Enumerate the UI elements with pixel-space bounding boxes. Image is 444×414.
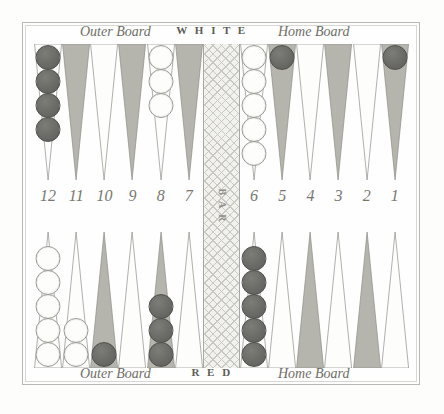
checker-white[interactable] xyxy=(242,141,267,166)
checker-white[interactable] xyxy=(36,294,61,319)
point-6[interactable] xyxy=(240,232,268,368)
top-home-board-label: Home Board xyxy=(278,24,349,40)
checker-stack[interactable] xyxy=(36,247,61,367)
backgammon-board-figure: Outer Board W H I T E Home Board B A R 1… xyxy=(0,0,444,414)
point-5[interactable] xyxy=(268,44,296,180)
point-number-8: 8 xyxy=(147,180,175,212)
checker-dark[interactable] xyxy=(270,45,295,70)
checker-stack[interactable] xyxy=(242,45,267,165)
checker-stack[interactable] xyxy=(148,45,173,117)
point-10[interactable] xyxy=(90,232,118,368)
point-12[interactable] xyxy=(34,232,62,368)
point-number-12: 12 xyxy=(34,180,62,212)
checker-stack[interactable] xyxy=(382,45,407,69)
top-outer-board-label: Outer Board xyxy=(80,24,151,40)
top-outer-quadrant xyxy=(34,44,203,180)
point-4[interactable] xyxy=(296,232,324,368)
checker-dark[interactable] xyxy=(148,294,173,319)
bottom-caption-row: Outer Board R E D Home Board xyxy=(34,366,409,384)
top-home-quadrant xyxy=(240,44,409,180)
checker-stack[interactable] xyxy=(148,295,173,367)
checker-stack[interactable] xyxy=(36,45,61,141)
checker-white[interactable] xyxy=(242,69,267,94)
checker-white[interactable] xyxy=(64,318,89,343)
checker-dark[interactable] xyxy=(242,318,267,343)
point-11[interactable] xyxy=(62,44,90,180)
point-number-6: 6 xyxy=(240,180,268,212)
point-number-7: 7 xyxy=(175,180,203,212)
point-1[interactable] xyxy=(381,232,409,368)
checker-white[interactable] xyxy=(148,93,173,118)
bottom-player-label: R E D xyxy=(191,366,232,378)
point-8[interactable] xyxy=(147,44,175,180)
checker-dark[interactable] xyxy=(36,45,61,70)
point-number-4: 4 xyxy=(296,180,324,212)
point-1[interactable] xyxy=(381,44,409,180)
point-7[interactable] xyxy=(175,232,203,368)
checker-stack[interactable] xyxy=(92,343,117,367)
point-3[interactable] xyxy=(324,44,352,180)
checker-dark[interactable] xyxy=(242,246,267,271)
checker-dark[interactable] xyxy=(242,294,267,319)
point-8[interactable] xyxy=(147,232,175,368)
checker-stack[interactable] xyxy=(64,319,89,367)
checker-dark[interactable] xyxy=(242,270,267,295)
point-6[interactable] xyxy=(240,44,268,180)
checker-dark[interactable] xyxy=(382,45,407,70)
checker-white[interactable] xyxy=(148,45,173,70)
top-caption-row: Outer Board W H I T E Home Board xyxy=(34,24,409,42)
point-12[interactable] xyxy=(34,44,62,180)
point-number-10: 10 xyxy=(90,180,118,212)
point-number-row: 121110987 654321 xyxy=(34,180,409,212)
point-7[interactable] xyxy=(175,44,203,180)
checker-dark[interactable] xyxy=(242,342,267,367)
checker-stack[interactable] xyxy=(242,247,267,367)
checker-stack[interactable] xyxy=(270,45,295,69)
checker-dark[interactable] xyxy=(36,117,61,142)
checker-white[interactable] xyxy=(36,246,61,271)
checker-white[interactable] xyxy=(148,69,173,94)
bottom-home-quadrant xyxy=(240,232,409,368)
checker-white[interactable] xyxy=(36,342,61,367)
point-number-1: 1 xyxy=(381,180,409,212)
point-number-3: 3 xyxy=(324,180,352,212)
checker-dark[interactable] xyxy=(36,69,61,94)
point-3[interactable] xyxy=(324,232,352,368)
point-number-5: 5 xyxy=(268,180,296,212)
bottom-outer-quadrant xyxy=(34,232,203,368)
point-number-2: 2 xyxy=(353,180,381,212)
bottom-home-board-label: Home Board xyxy=(278,366,349,382)
point-10[interactable] xyxy=(90,44,118,180)
point-5[interactable] xyxy=(268,232,296,368)
checker-white[interactable] xyxy=(242,45,267,70)
point-2[interactable] xyxy=(353,232,381,368)
checker-white[interactable] xyxy=(242,117,267,142)
point-9[interactable] xyxy=(118,232,146,368)
checker-dark[interactable] xyxy=(92,342,117,367)
point-number-9: 9 xyxy=(118,180,146,212)
checker-white[interactable] xyxy=(64,342,89,367)
point-11[interactable] xyxy=(62,232,90,368)
point-4[interactable] xyxy=(296,44,324,180)
checker-white[interactable] xyxy=(36,318,61,343)
point-number-11: 11 xyxy=(62,180,90,212)
point-numbers-left: 121110987 xyxy=(34,180,203,212)
top-player-label: W H I T E xyxy=(176,24,247,36)
checker-white[interactable] xyxy=(36,270,61,295)
checker-white[interactable] xyxy=(242,93,267,118)
point-9[interactable] xyxy=(118,44,146,180)
checker-dark[interactable] xyxy=(148,318,173,343)
checker-dark[interactable] xyxy=(36,93,61,118)
checker-dark[interactable] xyxy=(148,342,173,367)
point-2[interactable] xyxy=(353,44,381,180)
bottom-outer-board-label: Outer Board xyxy=(80,366,151,382)
point-numbers-right: 654321 xyxy=(240,180,409,212)
